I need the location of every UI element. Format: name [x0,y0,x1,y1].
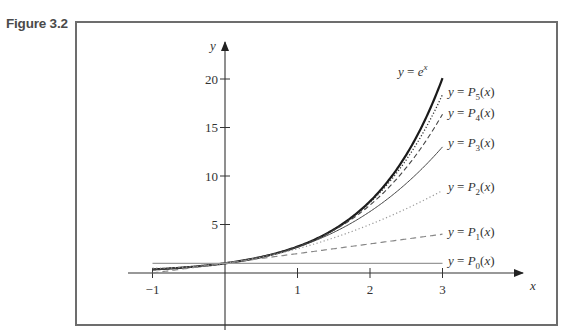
x-tick-label: 3 [439,282,446,297]
x-axis-label: x [529,278,536,293]
y-axis-label: y [208,38,216,53]
curve-label: y = P0(x) [446,253,495,271]
curve-label: y = ex [396,62,427,79]
chart-plot: −11235101520 y = exy = P5(x)y = P4(x)y =… [0,0,581,334]
curve-y-p5-x- [153,95,443,270]
y-tick-label: 5 [212,217,219,232]
y-tick-label: 20 [205,72,218,87]
x-tick-label: 2 [367,282,374,297]
curve-label: y = P5(x) [446,84,495,102]
curve-label: y = P3(x) [446,135,495,153]
x-tick-label: 1 [294,282,301,297]
curve-y-p2-x- [153,191,443,269]
x-tick-label: −1 [146,282,160,297]
curve-y-e-x [153,78,443,269]
curve-label: y = P2(x) [446,179,495,197]
curve-label: y = P1(x) [446,224,495,242]
y-tick-label: 15 [205,120,218,135]
y-tick-label: 10 [205,169,218,184]
curve-label: y = P4(x) [446,105,495,123]
curve-y-p1-x- [153,234,443,273]
